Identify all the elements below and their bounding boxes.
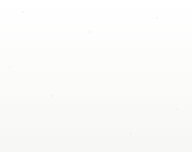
figure-container: z y x — [0, 0, 192, 152]
y-axis-label: y — [176, 73, 180, 82]
surface-wing-lower-left — [4, 78, 83, 132]
x-axis-label: x — [175, 91, 179, 100]
surface-plot-canvas — [0, 0, 192, 152]
z-axis-label: z — [88, 11, 92, 20]
saddle-surface — [4, 24, 182, 144]
surface-lobe-lower-front-shading — [82, 82, 141, 145]
